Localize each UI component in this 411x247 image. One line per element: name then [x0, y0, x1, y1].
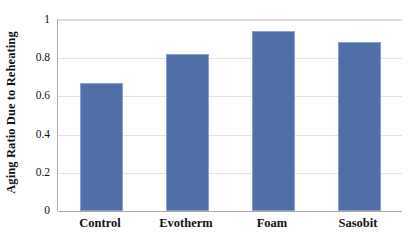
- bar: [338, 42, 381, 211]
- x-tick-label: Evotherm: [159, 216, 212, 231]
- x-tick-label: Sasobit: [339, 216, 378, 231]
- bar-series: [58, 20, 402, 211]
- y-axis-title-text: Aging Ratio Due to Reheating: [4, 31, 19, 194]
- y-tick-label: 0.6: [36, 89, 50, 101]
- bar: [80, 83, 123, 211]
- y-axis-tick-labels: 00.20.40.60.81: [22, 0, 54, 247]
- x-tick-label: Control: [79, 216, 120, 231]
- y-tick-label: 0.2: [36, 166, 50, 178]
- plot-area: [57, 19, 402, 211]
- y-tick-label: 0.4: [36, 128, 50, 140]
- bar: [252, 31, 295, 211]
- y-axis-title: Aging Ratio Due to Reheating: [0, 0, 22, 225]
- y-tick-label: 1: [44, 13, 50, 25]
- x-tick-label: Foam: [257, 216, 288, 231]
- x-axis-tick-labels: ControlEvothermFoamSasobit: [57, 213, 401, 243]
- bar: [166, 54, 209, 211]
- bar-chart-figure: Aging Ratio Due to Reheating 00.20.40.60…: [0, 0, 411, 247]
- y-tick-label: 0: [44, 204, 50, 216]
- y-tick-label: 0.8: [36, 51, 50, 63]
